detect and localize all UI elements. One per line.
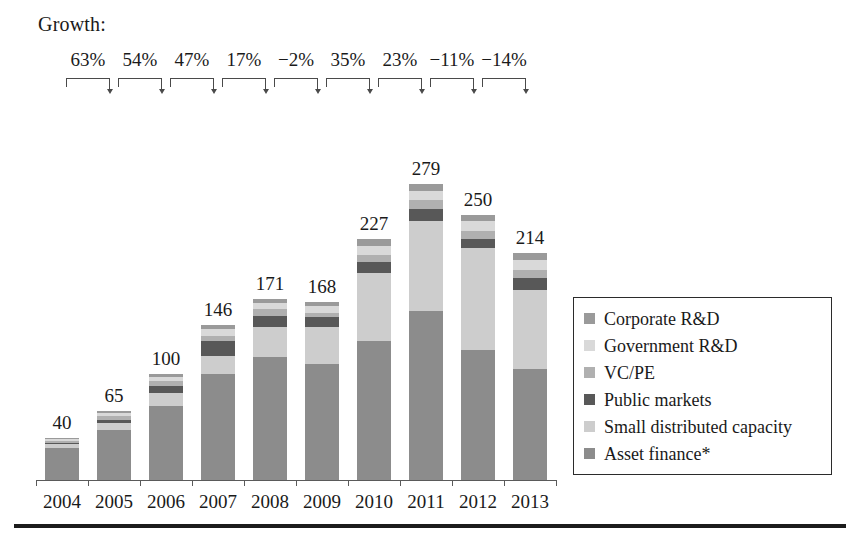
legend-item[interactable]: Government R&D (584, 332, 823, 359)
bar-segment[interactable] (409, 221, 443, 311)
bar-segment[interactable] (357, 273, 391, 341)
bar-group[interactable]: 227 (357, 104, 391, 480)
growth-percent-label: 63% (62, 48, 114, 72)
x-axis-tick (348, 481, 349, 486)
bar-segment[interactable] (461, 248, 495, 350)
legend-item[interactable]: Asset finance* (584, 440, 823, 467)
growth-bracket (482, 78, 526, 96)
bar-segment[interactable] (305, 327, 339, 364)
growth-percent-label: 54% (114, 48, 166, 72)
bar-group[interactable]: 100 (149, 104, 183, 480)
bar-segment[interactable] (201, 374, 235, 480)
stacked-bar[interactable] (201, 325, 235, 480)
bar-segment[interactable] (461, 350, 495, 480)
bar-segment[interactable] (201, 341, 235, 356)
growth-percent-label: −2% (270, 48, 322, 72)
bar-group[interactable]: 279 (409, 104, 443, 480)
bar-segment[interactable] (45, 448, 79, 480)
chart-legend: Corporate R&DGovernment R&DVC/PEPublic m… (573, 297, 832, 475)
bar-segment[interactable] (149, 406, 183, 480)
stacked-bar[interactable] (305, 302, 339, 480)
growth-annotation: 35% (322, 48, 374, 100)
x-axis-label-2010: 2010 (348, 489, 400, 515)
bar-segment[interactable] (97, 430, 131, 480)
bar-segment[interactable] (253, 316, 287, 328)
x-axis-label-2011: 2011 (400, 489, 452, 515)
bar-total-label: 279 (399, 158, 453, 180)
stacked-bar[interactable] (409, 184, 443, 480)
growth-annotation: 17% (218, 48, 270, 100)
bar-group[interactable]: 40 (45, 104, 79, 480)
bar-segment[interactable] (513, 260, 547, 271)
x-axis-tick (192, 481, 193, 486)
legend-label: Corporate R&D (604, 309, 719, 329)
bar-group[interactable]: 65 (97, 104, 131, 480)
growth-heading: Growth: (38, 13, 106, 36)
bracket-left-tick (482, 78, 483, 87)
legend-label: Asset finance* (604, 444, 710, 464)
stacked-bar[interactable] (253, 299, 287, 480)
bar-segment[interactable] (513, 270, 547, 277)
plot-area: 4065100146171168227279250214 (36, 104, 556, 480)
stacked-bar[interactable] (149, 374, 183, 480)
legend-label: VC/PE (604, 363, 655, 383)
growth-bracket (222, 78, 266, 96)
x-axis-label-2012: 2012 (452, 489, 504, 515)
x-axis-tick (88, 481, 89, 486)
bar-segment[interactable] (149, 393, 183, 406)
figure: Growth: 63%54%47%17%−2%35%23%−11%−14% 40… (0, 0, 859, 542)
bar-segment[interactable] (409, 191, 443, 201)
growth-annotation: 54% (114, 48, 166, 100)
bar-segment[interactable] (357, 341, 391, 480)
bar-segment[interactable] (357, 262, 391, 274)
bar-total-label: 227 (347, 213, 401, 235)
bar-segment[interactable] (409, 200, 443, 208)
legend-swatch-icon (584, 340, 595, 351)
bar-segment[interactable] (461, 239, 495, 247)
stacked-bar[interactable] (513, 253, 547, 480)
bar-segment[interactable] (357, 246, 391, 256)
bar-segment[interactable] (149, 386, 183, 393)
bar-group[interactable]: 214 (513, 104, 547, 480)
legend-swatch-icon (584, 421, 595, 432)
bar-segment[interactable] (461, 221, 495, 231)
bar-group[interactable]: 250 (461, 104, 495, 480)
bar-group[interactable]: 146 (201, 104, 235, 480)
bar-group[interactable]: 168 (305, 104, 339, 480)
stacked-bar[interactable] (97, 411, 131, 480)
bracket-arrow-icon (107, 89, 113, 94)
legend-item[interactable]: Small distributed capacity (584, 413, 823, 440)
bar-segment[interactable] (513, 278, 547, 291)
growth-bracket (430, 78, 474, 96)
growth-annotations: 63%54%47%17%−2%35%23%−11%−14% (36, 48, 556, 100)
bracket-span (170, 78, 214, 79)
growth-bracket (170, 78, 214, 96)
stacked-bar[interactable] (45, 438, 79, 480)
bar-segment[interactable] (409, 209, 443, 222)
bar-segment[interactable] (513, 290, 547, 368)
bar-segment[interactable] (513, 369, 547, 480)
stacked-bar[interactable] (357, 239, 391, 480)
bar-group[interactable]: 171 (253, 104, 287, 480)
x-axis-labels: 2004200520062007200820092010201120122013 (36, 489, 556, 517)
bar-segment[interactable] (305, 317, 339, 328)
bracket-span (66, 78, 110, 79)
bracket-span (326, 78, 370, 79)
bracket-span (482, 78, 526, 79)
bar-segment[interactable] (97, 423, 131, 430)
legend-item[interactable]: Public markets (584, 386, 823, 413)
legend-item[interactable]: Corporate R&D (584, 305, 823, 332)
bar-segment[interactable] (253, 357, 287, 480)
bar-segment[interactable] (461, 231, 495, 239)
bar-segment[interactable] (305, 364, 339, 480)
bracket-left-tick (222, 78, 223, 87)
bar-segment[interactable] (253, 327, 287, 357)
bar-segment[interactable] (409, 311, 443, 480)
stacked-bar[interactable] (461, 215, 495, 480)
bracket-arrow-icon (263, 89, 269, 94)
bracket-left-tick (118, 78, 119, 87)
bracket-span (118, 78, 162, 79)
legend-item[interactable]: VC/PE (584, 359, 823, 386)
bar-segment[interactable] (201, 356, 235, 374)
bracket-left-tick (170, 78, 171, 87)
